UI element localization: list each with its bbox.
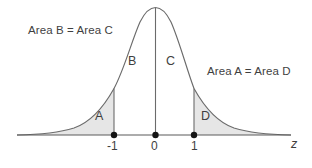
normal-curve-diagram: Area B = Area C Area A = Area D A B C D … (0, 0, 312, 168)
axis-tick-label-neg1: -1 (107, 140, 118, 152)
axis-tick-label-one: 1 (191, 140, 198, 152)
axis-name-label: z (291, 138, 297, 151)
region-label-a: A (95, 110, 103, 123)
annotation-area-b-equals-area-c: Area B = Area C (28, 25, 113, 37)
tick-dot-neg1 (111, 132, 117, 138)
region-label-c: C (166, 55, 175, 68)
annotation-area-a-equals-area-d: Area A = Area D (207, 66, 291, 78)
axis-tick-label-zero: 0 (151, 140, 158, 152)
tick-dot-one (191, 132, 197, 138)
tick-dot-zero (152, 132, 158, 138)
region-label-b: B (128, 55, 136, 68)
region-label-d: D (201, 110, 210, 123)
